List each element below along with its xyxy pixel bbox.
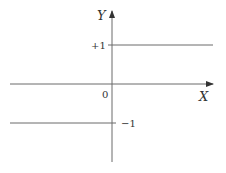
plus-one-label: +1 [91, 40, 106, 51]
x-axis-label: X [198, 89, 209, 104]
origin-label: 0 [102, 89, 108, 100]
minus-one-label: −1 [121, 118, 136, 129]
y-axis-label: Y [97, 8, 107, 23]
sign-function-chart: Y X 0 +1 −1 [0, 0, 226, 173]
